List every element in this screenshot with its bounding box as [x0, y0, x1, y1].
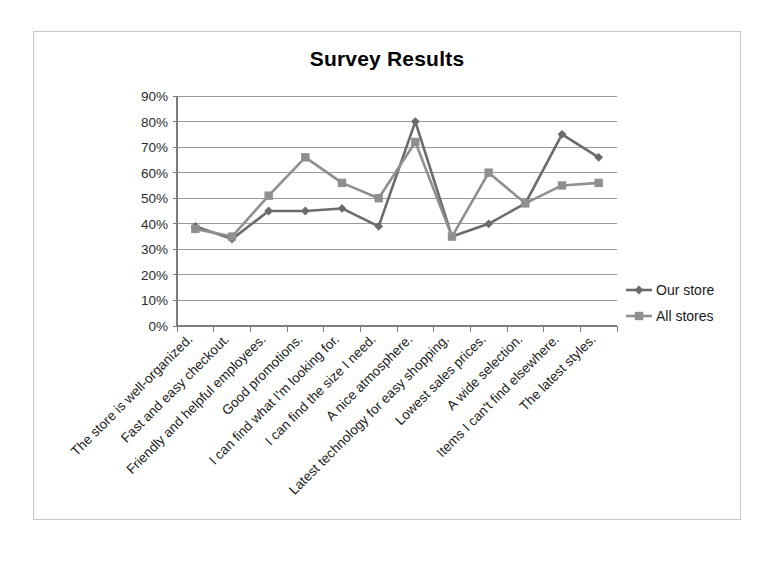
y-axis-tick-label: 20%	[141, 268, 168, 283]
data-point-marker	[558, 181, 566, 189]
y-axis-tick-label: 70%	[141, 140, 168, 155]
data-point-marker	[484, 168, 492, 176]
data-point-marker	[374, 194, 382, 202]
data-point-marker	[594, 179, 602, 187]
series-lines-group	[195, 122, 598, 240]
data-point-marker	[338, 204, 347, 213]
data-point-marker	[264, 191, 272, 199]
y-axis-tick-label: 80%	[141, 115, 168, 130]
series-line-our-store	[195, 122, 598, 240]
data-point-marker	[411, 138, 419, 146]
x-axis-category-label: Friendly and helpful employees.	[123, 332, 268, 477]
gridlines-group	[173, 96, 617, 326]
data-point-marker	[374, 222, 383, 231]
axis-lines	[177, 96, 617, 326]
x-axis-category-labels: The store is well-organized.Fast and eas…	[68, 332, 599, 498]
data-point-marker	[301, 207, 310, 216]
y-axis-tick-label: 0%	[148, 319, 168, 334]
y-axis-tick-label: 40%	[141, 217, 168, 232]
data-point-marker	[521, 199, 529, 207]
legend-label-our-store: Our store	[656, 282, 715, 298]
survey-results-line-chart: 0%10%20%30%40%50%60%70%80%90% The store …	[34, 32, 740, 519]
data-point-marker	[191, 225, 199, 233]
data-point-marker	[301, 153, 309, 161]
data-point-marker	[338, 179, 346, 187]
y-axis-tick-label: 10%	[141, 293, 168, 308]
y-axis-tick-label: 30%	[141, 242, 168, 257]
y-axis-tick-label: 90%	[141, 89, 168, 104]
legend-marker	[635, 312, 643, 320]
data-point-marker	[228, 232, 236, 240]
y-axis-tick-label: 60%	[141, 166, 168, 181]
chart-legend: Our storeAll stores	[626, 282, 715, 324]
data-point-marker	[411, 117, 420, 126]
y-axis-tick-label: 50%	[141, 191, 168, 206]
legend-label-all-stores: All stores	[656, 308, 714, 324]
data-point-marker	[448, 232, 456, 240]
y-axis-tick-labels: 0%10%20%30%40%50%60%70%80%90%	[141, 89, 168, 334]
legend-marker	[635, 286, 644, 295]
chart-frame: Survey Results 0%10%20%30%40%50%60%70%80…	[33, 31, 741, 520]
